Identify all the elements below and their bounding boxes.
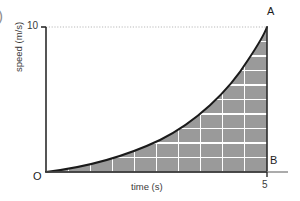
x-tick-label-5: 5 bbox=[262, 180, 268, 190]
y-tick-label-10: 10 bbox=[27, 21, 38, 31]
point-label-a: A bbox=[267, 6, 274, 17]
origin-label-o: O bbox=[33, 171, 42, 182]
x-axis-label: time (s) bbox=[131, 182, 163, 192]
y-axis-label: speed (m/s) bbox=[14, 22, 24, 72]
point-label-b: B bbox=[270, 155, 277, 166]
speed-time-graph bbox=[0, 0, 300, 201]
